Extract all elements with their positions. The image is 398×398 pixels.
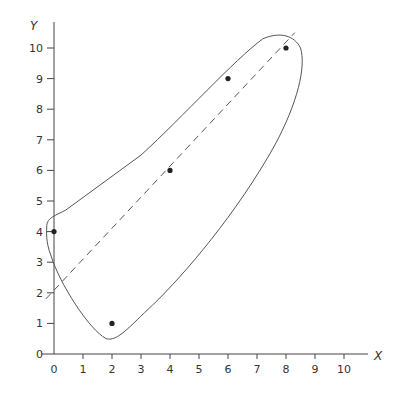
y-tick-label: 2 <box>36 287 43 300</box>
y-tick-label: 10 <box>29 42 43 55</box>
y-tick-label: 9 <box>36 73 43 86</box>
scatter-chart: 012345678910012345678910 X Y <box>0 0 398 398</box>
x-tick-label: 8 <box>283 363 290 376</box>
x-tick-label: 9 <box>312 363 319 376</box>
x-tick-label: 6 <box>225 363 232 376</box>
regression-line <box>46 33 295 299</box>
y-tick-label: 1 <box>36 317 43 330</box>
x-tick-label: 5 <box>196 363 203 376</box>
y-tick-label: 7 <box>36 134 43 147</box>
dashed-regression-line <box>46 33 295 299</box>
y-tick-label: 8 <box>36 103 43 116</box>
y-tick-label: 4 <box>36 226 43 239</box>
data-point <box>167 168 172 173</box>
y-axis-label: Y <box>30 19 39 33</box>
x-tick-label: 3 <box>138 363 145 376</box>
axes: 012345678910012345678910 <box>29 22 368 376</box>
enclosing-outline <box>47 35 303 339</box>
x-tick-label: 2 <box>109 363 116 376</box>
y-tick-label: 0 <box>36 348 43 361</box>
y-tick-label: 6 <box>36 164 43 177</box>
data-points <box>51 45 288 326</box>
x-tick-label: 4 <box>167 363 174 376</box>
x-tick-label: 1 <box>80 363 87 376</box>
outline-curve <box>47 35 303 339</box>
x-tick-label: 10 <box>337 363 351 376</box>
data-point <box>283 45 288 50</box>
x-tick-label: 0 <box>51 363 58 376</box>
y-tick-label: 5 <box>36 195 43 208</box>
data-point <box>51 229 56 234</box>
data-point <box>225 76 230 81</box>
y-tick-label: 3 <box>36 256 43 269</box>
x-tick-label: 7 <box>254 363 261 376</box>
data-point <box>109 321 114 326</box>
x-axis-label: X <box>373 349 383 363</box>
